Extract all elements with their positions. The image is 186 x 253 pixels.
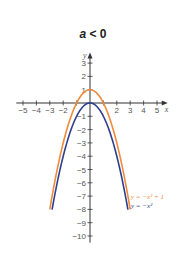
x-tick-label: 4 [141,106,146,115]
y-tick-label: 3 [82,59,87,68]
y-tick-label: −10 [72,232,86,241]
x-tick-label: −5 [18,106,28,115]
y-tick-label: −8 [77,205,87,214]
y-tick-label: −4 [77,152,87,161]
y-tick-label: −5 [77,166,87,175]
y-tick-label: −7 [77,192,87,201]
legend-entry: y = −x² [130,202,153,210]
x-tick-label: 3 [128,106,133,115]
x-tick-label: −2 [59,106,69,115]
parabola-chart: xy−5−4−3−22345321−1−2−3−4−5−6−7−8−9−10y … [0,0,186,253]
x-tick-label: −3 [45,106,55,115]
x-tick-label: 5 [155,106,160,115]
x-tick-label: −4 [32,106,42,115]
y-tick-label: −3 [77,139,87,148]
y-tick-label: 2 [82,72,87,81]
y-axis-arrow-icon [88,52,93,58]
y-tick-label: −2 [77,126,87,135]
x-axis-label: x [164,105,169,114]
x-tick-label: 2 [115,106,120,115]
y-tick-label: −6 [77,179,87,188]
legend-entry: y = −x² + 1 [130,193,164,201]
y-tick-label: −9 [77,219,87,228]
